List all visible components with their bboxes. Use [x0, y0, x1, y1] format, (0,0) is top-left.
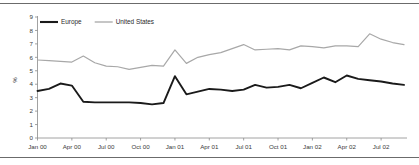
y-tick-label: 9 [30, 13, 34, 20]
legend-label-united-states: United States [116, 18, 154, 25]
y-tick-label: 7 [30, 40, 34, 47]
y-axis-title: % [11, 77, 18, 83]
y-tick-label: 3 [30, 94, 34, 101]
x-tick-label: Jan 00 [28, 143, 47, 150]
x-tick-label: Apr 02 [338, 143, 357, 150]
legend-label-europe: Europe [61, 18, 82, 26]
x-tick-label: Apr 01 [200, 143, 219, 150]
series-line-united-states [38, 34, 405, 70]
x-tick-label: Jan 01 [166, 143, 185, 150]
line-chart-plot: 0123456789%Jan 00Apr 00Jul 00Oct 00Jan 0… [0, 0, 419, 165]
y-tick-label: 4 [30, 80, 34, 87]
y-tick-label: 6 [30, 54, 34, 61]
y-tick-label: 0 [30, 134, 34, 141]
chart-figure: 0123456789%Jan 00Apr 00Jul 00Oct 00Jan 0… [0, 0, 419, 165]
series-line-europe [38, 75, 405, 104]
x-tick-label: Oct 01 [269, 143, 288, 150]
x-tick-label: Jul 00 [98, 143, 115, 150]
x-tick-label: Jul 02 [373, 143, 390, 150]
x-tick-label: Jan 02 [303, 143, 322, 150]
x-tick-label: Apr 00 [63, 143, 82, 150]
x-tick-label: Oct 00 [131, 143, 150, 150]
y-tick-label: 8 [30, 27, 34, 34]
y-tick-label: 5 [30, 67, 34, 74]
y-tick-label: 2 [30, 107, 34, 114]
y-tick-label: 1 [30, 121, 34, 128]
x-tick-label: Jul 01 [235, 143, 252, 150]
